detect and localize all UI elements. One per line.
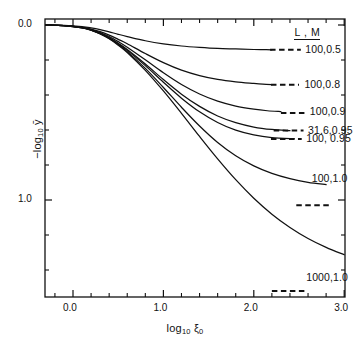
chart-figure xyxy=(0,0,356,340)
legend-label-1000-1-0: 1000,1.0 xyxy=(306,271,348,283)
legend-label-100-0-9: 100,0.9 xyxy=(310,105,346,117)
legend-label-100-1-0: 100,1.0 xyxy=(312,172,348,184)
y-tick-label: 0.0 xyxy=(18,18,32,29)
x-axis-label-text: log10 ξ0 xyxy=(167,322,204,334)
x-tick-label: 2.0 xyxy=(244,302,258,313)
curve-100-0-9 xyxy=(46,25,281,112)
y-tick-label: 1.0 xyxy=(18,193,32,204)
x-axis-label: log10 ξ0 xyxy=(130,318,240,336)
curve-31-6-0-95 xyxy=(46,25,290,131)
x-tick-label: 1.0 xyxy=(153,302,167,313)
y-axis-label-text: −log10 ȳ xyxy=(31,119,43,159)
y-axis-label: −log10 ȳ xyxy=(27,99,45,179)
axis-ticks xyxy=(45,19,345,297)
legend-header: L , M xyxy=(294,26,320,40)
x-tick-label: 0.0 xyxy=(63,302,77,313)
plot-frame xyxy=(45,19,345,297)
legend-label-100-0-8: 100,0.8 xyxy=(304,78,340,90)
x-tick-label: 3.0 xyxy=(334,302,348,313)
curve-100-0-5 xyxy=(46,25,272,50)
curve-100--0-95 xyxy=(46,25,295,139)
legend-label-100-0-5: 100,0.5 xyxy=(305,43,341,55)
legend-label-100--0-95: 100, 0.95 xyxy=(306,132,351,144)
